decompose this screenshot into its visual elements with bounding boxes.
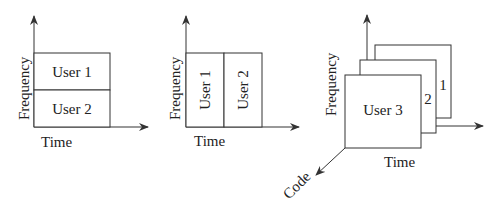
code-axis [316, 148, 345, 175]
time-axis-label: Time [384, 154, 415, 170]
frequency-axis-label: Frequency [16, 56, 32, 120]
time-axis-label: Time [194, 133, 225, 149]
diagram-tdma: User 1 User 2 Frequency Time [167, 16, 299, 149]
user-2-label: 2 [424, 91, 432, 107]
user-3-label: User 3 [363, 102, 403, 118]
user-2-label: User 2 [235, 70, 251, 110]
user-1-label: User 1 [52, 64, 92, 80]
frequency-axis-label: Frequency [167, 56, 183, 120]
user-1-label: 1 [439, 77, 447, 93]
diagram-fdma: User 1 User 2 Frequency Time [16, 16, 148, 150]
frequency-axis-label: Frequency [323, 52, 339, 116]
code-axis-label: Code [280, 168, 314, 202]
user-1-label: User 1 [197, 70, 213, 110]
multiple-access-diagram: User 1 User 2 Frequency Time User 1 User… [0, 0, 500, 214]
user-2-label: User 2 [52, 101, 92, 117]
diagram-cdma: 1 2 User 3 Frequency Time Code [280, 15, 483, 202]
time-axis-label: Time [41, 134, 72, 150]
